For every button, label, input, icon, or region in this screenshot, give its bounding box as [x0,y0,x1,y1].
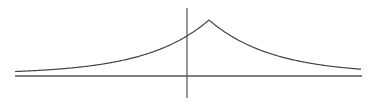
laplace-plot [0,0,372,112]
density-curve [15,20,361,72]
